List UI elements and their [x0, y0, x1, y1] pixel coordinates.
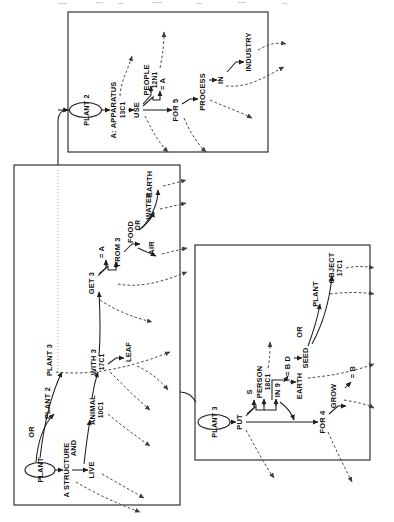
label-plant-3-node: PLANT 3 — [45, 344, 54, 376]
edge-in-industry — [227, 62, 244, 72]
label-air: AIR — [147, 241, 156, 255]
edge-person-dashed — [268, 342, 270, 368]
label-earth: EARTH — [145, 171, 154, 197]
edge-structure-out — [76, 482, 140, 512]
edge-for5-process — [182, 99, 198, 104]
label-from-3: FROM 3 — [113, 237, 122, 266]
edge-with3-out — [110, 372, 150, 410]
label-or-2: OR — [134, 220, 141, 230]
label-earth-3: EARTH — [295, 373, 304, 399]
edge-put-out — [246, 430, 274, 478]
label-s: S — [245, 389, 254, 394]
label-leaf: LEAF — [124, 342, 133, 362]
edge-use-out — [145, 116, 168, 152]
edge-get3-out-2 — [100, 300, 152, 322]
label-live: LIVE — [87, 461, 96, 478]
label-get-3: GET 3 — [87, 272, 96, 294]
edge-grow-equalsb — [345, 382, 351, 388]
edge-plant-plant2 — [36, 414, 54, 462]
label-plant-2-root: PLANT 2 — [82, 94, 91, 125]
label-object: OBJECT — [327, 252, 336, 283]
panel-2-structure: PLANT A STRUCTURE LIVE AND ANIMAL 10C1 W… — [14, 110, 187, 512]
edge-earth-out-3 — [308, 364, 374, 378]
label-equals-b: = B — [348, 366, 357, 378]
label-grow: GROW — [329, 384, 338, 409]
edge-people-dashed — [160, 32, 164, 68]
label-people: PEOPLE — [142, 64, 151, 95]
edge-for4-out — [328, 432, 352, 482]
label-for-5: FOR 5 — [171, 99, 180, 122]
label-industry: INDUSTRY — [244, 32, 253, 71]
label-and: AND — [69, 439, 78, 456]
diagram-canvas: PLANT 2 A: APPARATUS 13C1 USE PEOPLE 12N… — [0, 0, 394, 522]
patent-flow-diagram: PLANT 2 A: APPARATUS 13C1 USE PEOPLE 12N… — [0, 0, 394, 522]
edge-earth-out — [163, 180, 186, 186]
edge-with3-leaf — [108, 358, 124, 364]
label-person-code: 18C1 — [264, 374, 271, 391]
label-process: PROCESS — [198, 73, 207, 111]
label-person: PERSON — [255, 366, 264, 398]
label-or: OR — [27, 426, 36, 438]
label-in: IN — [216, 76, 225, 84]
label-people-code: 12N1 — [151, 72, 158, 89]
label-animal-code: 10C1 — [97, 402, 104, 419]
label-apparatus: A: APPARATUS — [109, 82, 118, 139]
label-plant-node: PLANT — [311, 281, 320, 307]
edge-in9-down — [280, 402, 294, 420]
edge-and-animal — [84, 420, 90, 464]
edge-get3-out — [118, 272, 187, 285]
edge-industry-out-2 — [226, 67, 284, 86]
scan-noise — [58, 2, 287, 4]
label-equals-a: = A — [158, 78, 167, 90]
edge-with3-get3 — [99, 292, 100, 356]
label-plant-3-root: PLANT 3 — [210, 406, 219, 437]
label-in-9: IN 9 — [273, 383, 282, 397]
label-animal: ANIMAL — [88, 395, 97, 425]
label-use: USE — [132, 102, 141, 118]
label-plant-root: PLANT — [36, 457, 45, 482]
label-or-3: OR — [295, 326, 304, 338]
edge-plant3-out — [56, 352, 170, 373]
label-with-3-code: 17C1 — [98, 354, 105, 371]
edge-panel2-to-panel3 — [180, 392, 196, 402]
edge-plant-out — [330, 293, 374, 295]
panel-3-planting: PLANT 3 PUT S PERSON 18C1 IN 9 = B D SEE… — [180, 245, 374, 482]
edge-put-branch-in9 — [264, 402, 276, 410]
label-apparatus-code: 13C1 — [119, 102, 126, 119]
edge-for5-out — [184, 118, 206, 152]
edge-live-out — [102, 474, 144, 498]
edge-panel2-to-panel1 — [58, 110, 68, 165]
label-object-code: 17C1 — [336, 260, 343, 277]
label-put: PUT — [235, 414, 244, 430]
panel-1-apparatus: PLANT 2 A: APPARATUS 13C1 USE PEOPLE 12N… — [58, 12, 286, 152]
edge-put-branch-person — [247, 402, 264, 414]
edge-process-out — [210, 100, 252, 118]
label-equals-a-2: = A — [97, 246, 106, 258]
edge-animal-out — [108, 414, 150, 446]
edge-apparatus-dashed — [120, 56, 132, 96]
label-seed: SEED — [301, 347, 310, 368]
label-for-4: FOR 4 — [318, 410, 327, 433]
edge-from3-food — [124, 244, 140, 252]
edge-air-out — [162, 248, 187, 254]
edge-water-out — [160, 203, 186, 209]
edge-leaf-out — [137, 366, 168, 390]
label-equals-bd: = B D — [283, 355, 292, 376]
edge-industry-out-1 — [258, 43, 286, 50]
